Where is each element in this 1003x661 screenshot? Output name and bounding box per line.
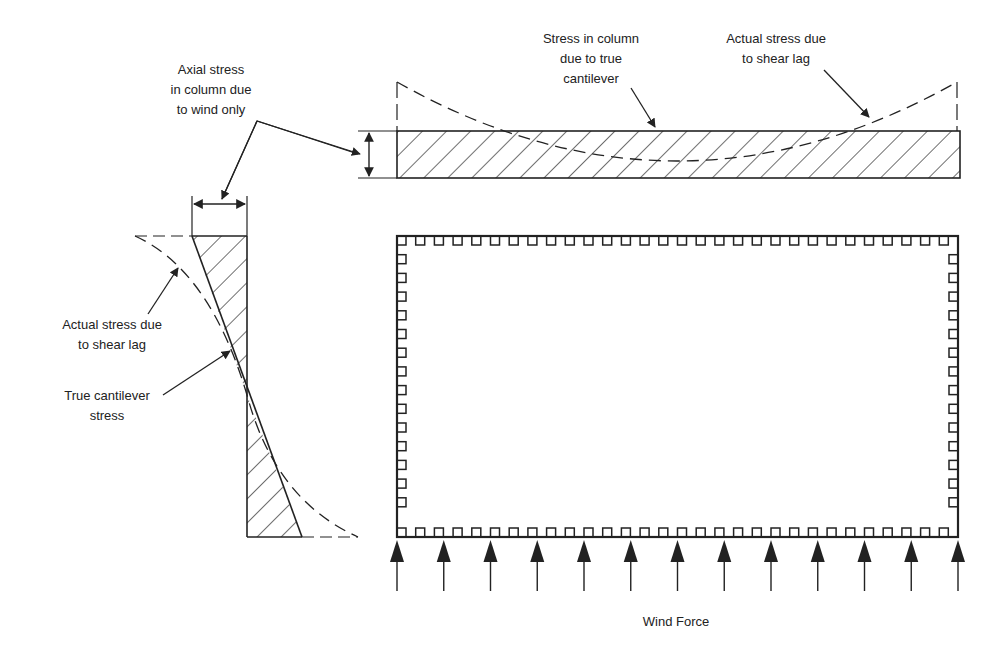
column-square (696, 236, 705, 245)
wind-arrow-icon (624, 540, 638, 562)
column-square (397, 423, 406, 432)
svg-text:Actual stress due: Actual stress due (726, 31, 826, 46)
flange-stress-diagram (358, 82, 960, 178)
svg-text:to shear lag: to shear lag (78, 337, 146, 352)
column-square (949, 442, 958, 451)
column-square (603, 236, 612, 245)
column-square (949, 311, 958, 320)
column-square (715, 528, 724, 537)
column-square (939, 236, 948, 245)
column-square (453, 528, 462, 537)
column-square (827, 236, 836, 245)
column-square (434, 236, 443, 245)
column-square (397, 255, 406, 264)
column-square (949, 498, 958, 507)
column-square (584, 528, 593, 537)
svg-text:to shear lag: to shear lag (742, 51, 810, 66)
column-square (921, 236, 930, 245)
column-square (949, 367, 958, 376)
column-square (790, 236, 799, 245)
column-square (715, 236, 724, 245)
wind-arrow-icon (717, 540, 731, 562)
svg-text:Stress in column: Stress in column (543, 31, 639, 46)
column-square (621, 236, 630, 245)
column-square (584, 236, 593, 245)
column-square (565, 236, 574, 245)
column-square (472, 528, 481, 537)
svg-text:cantilever: cantilever (563, 71, 619, 86)
column-square (565, 528, 574, 537)
column-square (397, 367, 406, 376)
column-square (790, 528, 799, 537)
label-axial-stress: Axial stress in column due to wind only (171, 62, 360, 199)
column-square (678, 528, 687, 537)
column-square (397, 528, 406, 537)
wind-arrow-icon (904, 540, 918, 562)
column-square (827, 528, 836, 537)
svg-text:in column due: in column due (171, 82, 252, 97)
column-square (547, 528, 556, 537)
column-square (491, 236, 500, 245)
column-square (397, 311, 406, 320)
column-square (949, 423, 958, 432)
column-square (949, 404, 958, 413)
column-square (397, 460, 406, 469)
column-square (528, 236, 537, 245)
column-square (397, 404, 406, 413)
column-square (949, 348, 958, 357)
svg-text:to wind only: to wind only (177, 102, 246, 117)
column-square (509, 528, 518, 537)
column-square (734, 236, 743, 245)
column-square (808, 528, 817, 537)
column-square (752, 236, 761, 245)
label-wind-force: Wind Force (643, 614, 709, 629)
column-square (808, 236, 817, 245)
shear-lag-diagram: Axial stress in column due to wind only … (0, 0, 1003, 661)
label-true-cantilever-stress: True cantilever stress (64, 351, 230, 423)
column-square (949, 386, 958, 395)
column-square (416, 528, 425, 537)
column-square (949, 273, 958, 282)
column-square (752, 528, 761, 537)
column-square (453, 236, 462, 245)
column-square (397, 479, 406, 488)
column-square (949, 255, 958, 264)
column-square (865, 528, 874, 537)
wind-arrow-icon (484, 540, 498, 562)
wind-arrow-icon (577, 540, 591, 562)
svg-text:due to true: due to true (560, 51, 622, 66)
column-square (397, 386, 406, 395)
svg-text:stress: stress (90, 408, 125, 423)
flange-stress-block (397, 131, 960, 178)
wind-arrow-icon (764, 540, 778, 562)
label-actual-stress-top: Actual stress due to shear lag (726, 31, 869, 117)
column-square (939, 528, 948, 537)
column-square (696, 528, 705, 537)
column-square (640, 528, 649, 537)
column-square (921, 528, 930, 537)
column-square (883, 528, 892, 537)
wind-arrow-icon (858, 540, 872, 562)
column-square (472, 236, 481, 245)
label-stress-true-cantilever: Stress in column due to true cantilever (543, 31, 655, 127)
wind-arrow-icon (671, 540, 685, 562)
wind-arrow-icon (437, 540, 451, 562)
column-square (397, 330, 406, 339)
column-square (509, 236, 518, 245)
tube-frame (397, 236, 958, 537)
column-square (397, 498, 406, 507)
column-square (416, 236, 425, 245)
column-square (771, 236, 780, 245)
web-stress-diagram (135, 196, 358, 537)
column-square (397, 348, 406, 357)
column-square (902, 528, 911, 537)
label-actual-stress-left: Actual stress due to shear lag (62, 268, 178, 352)
column-square (547, 236, 556, 245)
column-square (397, 442, 406, 451)
column-square (434, 528, 443, 537)
svg-text:Actual stress due: Actual stress due (62, 317, 162, 332)
column-square (659, 236, 668, 245)
column-square (846, 528, 855, 537)
column-square (865, 236, 874, 245)
column-square (397, 236, 406, 245)
